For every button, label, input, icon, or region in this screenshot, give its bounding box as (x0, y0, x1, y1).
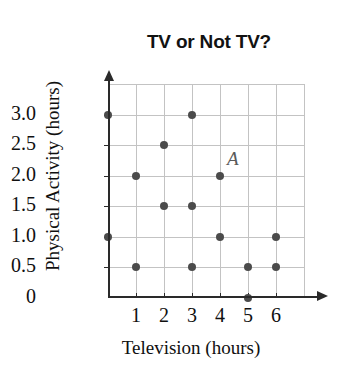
y-tick-label: 1.0 (11, 224, 36, 247)
data-point (216, 233, 224, 241)
y-tick-label: 1.5 (11, 193, 36, 216)
data-point (272, 233, 280, 241)
data-point (188, 202, 196, 210)
y-axis-arrow-icon (104, 70, 114, 81)
y-tick-label: 3.0 (11, 102, 36, 125)
y-tick-label: 2.0 (11, 163, 36, 186)
point-annotation-label: A (227, 148, 239, 170)
plot-area: A (108, 84, 304, 298)
grid-line-horizontal (108, 115, 304, 116)
data-point (272, 263, 280, 271)
x-tick-label: 6 (263, 304, 289, 327)
y-tick-label: 0 (26, 285, 36, 308)
x-tick-label: 5 (235, 304, 261, 327)
data-point (188, 263, 196, 271)
data-point (160, 202, 168, 210)
data-point (188, 111, 196, 119)
x-tick-label: 2 (151, 304, 177, 327)
data-point (216, 172, 224, 180)
grid-line-horizontal (108, 145, 304, 146)
x-axis-line (108, 296, 320, 298)
x-axis-title: Television (hours) (56, 337, 326, 359)
y-tick-label: 0.5 (11, 254, 36, 277)
y-axis-line (108, 78, 110, 298)
y-tick-label: 2.5 (11, 132, 36, 155)
data-point (244, 263, 252, 271)
grid-line-vertical (304, 84, 305, 298)
y-axis-title: Physical Activity (hours) (42, 41, 64, 311)
x-tick-label: 3 (179, 304, 205, 327)
grid-line-vertical (164, 84, 165, 298)
x-tick-label: 1 (123, 304, 149, 327)
data-point (160, 141, 168, 149)
scatter-plot-figure: TV or Not TV? Physical Activity (hours) … (0, 0, 342, 385)
chart-title: TV or Not TV? (104, 31, 314, 53)
x-axis-arrow-icon (317, 291, 328, 301)
grid-line-horizontal (108, 206, 304, 207)
grid-line-vertical (220, 84, 221, 298)
x-tick-label: 4 (207, 304, 233, 327)
grid-line-horizontal (108, 84, 304, 85)
data-point (132, 263, 140, 271)
data-point (132, 172, 140, 180)
